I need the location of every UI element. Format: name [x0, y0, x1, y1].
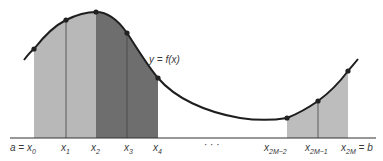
- label-x1: x1: [60, 142, 70, 155]
- point-x2M-2: [284, 115, 289, 120]
- label-x2M-2: x2M−2: [263, 142, 287, 155]
- point-x1: [63, 17, 68, 22]
- point-x0: [31, 46, 36, 51]
- label-x4: x4: [152, 142, 162, 155]
- point-x2M: [345, 68, 350, 73]
- simpson-rule-diagram: y = f(x) a = x0 x1 x2 x3 x4 · · · x2M−2 …: [0, 0, 383, 161]
- point-x2: [93, 9, 98, 14]
- point-x4: [155, 75, 160, 80]
- label-x3: x3: [123, 142, 133, 155]
- point-x2M-1: [315, 98, 320, 103]
- label-x2M-1: x2M−1: [304, 142, 328, 155]
- panel-1-shading: [34, 12, 96, 138]
- curve-label: y = f(x): [148, 54, 180, 65]
- node-labels: a = x0 x1 x2 x3 x4 · · · x2M−2 x2M−1 x2M…: [10, 139, 373, 155]
- point-x3: [124, 30, 129, 35]
- label-x0: a = x0: [10, 142, 36, 155]
- label-x2: x2: [90, 142, 100, 155]
- label-x2M: x2M = b: [340, 142, 373, 155]
- ellipsis: · · ·: [204, 139, 220, 150]
